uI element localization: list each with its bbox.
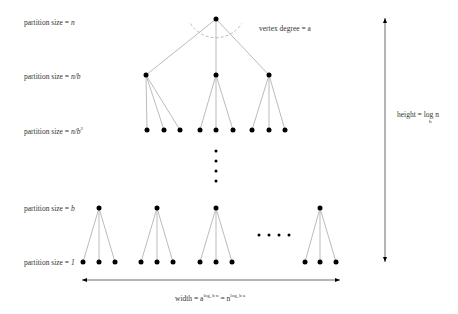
leaf-node [230, 260, 235, 265]
edge [320, 208, 336, 262]
level3-node [97, 206, 102, 211]
ellipsis-dot [288, 234, 291, 237]
leaf-node [113, 260, 118, 265]
level1-node [267, 73, 272, 78]
ellipsis-dot [215, 150, 218, 153]
level1-node [214, 73, 219, 78]
edge [305, 208, 320, 262]
tree-nodes [81, 17, 339, 265]
arrowhead-icon [383, 257, 387, 262]
edge [157, 208, 173, 262]
edge [216, 208, 232, 262]
edge [146, 75, 164, 130]
leaf-node [81, 260, 86, 265]
leaf-node [334, 260, 339, 265]
edge [83, 208, 99, 262]
ellipsis-dot [268, 234, 271, 237]
arrowhead-icon [335, 278, 340, 282]
level3-node [214, 206, 219, 211]
partition-label-n-over-b: partition size = n/b [24, 72, 81, 81]
edge [216, 75, 233, 130]
leaf-node [139, 260, 144, 265]
leaf-node [318, 260, 323, 265]
width-label: width = alog_b n = nlog_b a [175, 293, 245, 303]
leaf-node [198, 260, 203, 265]
level2-node [162, 128, 167, 133]
level1-node [144, 73, 149, 78]
edge [146, 19, 216, 75]
tree-edges [83, 19, 336, 262]
edge [252, 75, 269, 130]
edge [200, 75, 216, 130]
level3-node [318, 206, 323, 211]
edge [269, 75, 285, 130]
level2-node [198, 128, 203, 133]
leaf-node [155, 260, 160, 265]
level2-node [283, 128, 288, 133]
ellipsis-dot [215, 180, 218, 183]
edge [141, 208, 157, 262]
partition-label-n: partition size = n [24, 18, 75, 27]
edge [146, 75, 147, 130]
level2-node [231, 128, 236, 133]
ellipsis-dot [215, 170, 218, 173]
dimension-arrows [82, 18, 387, 282]
leaf-node [97, 260, 102, 265]
partition-label-n-over-b2: partition size = n/b2 [24, 126, 83, 136]
arrowhead-icon [383, 18, 387, 23]
height-label: height = log nb [397, 110, 441, 121]
level2-node [250, 128, 255, 133]
edge [146, 75, 180, 130]
level2-node [145, 128, 150, 133]
vertex-degree-label: vertex degree = a [259, 24, 311, 33]
ellipsis-dot [258, 234, 261, 237]
ellipsis-dot [278, 234, 281, 237]
edge [200, 208, 216, 262]
level3-node [155, 206, 160, 211]
partition-label-b: partition size = b [24, 204, 75, 213]
ellipsis-dot [215, 160, 218, 163]
partition-label-1: partition size = 1 [24, 258, 75, 267]
edge [99, 208, 115, 262]
root-node [214, 17, 219, 22]
leaf-node [171, 260, 176, 265]
leaf-node [214, 260, 219, 265]
arrowhead-icon [82, 278, 87, 282]
level2-node [178, 128, 183, 133]
level2-node [214, 128, 219, 133]
level2-node [267, 128, 272, 133]
leaf-node [303, 260, 308, 265]
